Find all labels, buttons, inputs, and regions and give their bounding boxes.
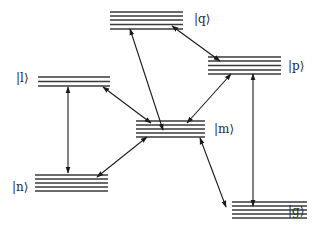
level-label-q: |q⟩ (194, 13, 210, 25)
energy-level-diagram (0, 0, 320, 231)
transition-arrow-m-g (200, 138, 226, 207)
transition-arrow-m-n (97, 137, 147, 177)
transition-arrows (68, 26, 253, 207)
transition-arrow-q-p (172, 26, 220, 61)
level-m (136, 121, 205, 137)
level-label-l: |l⟩ (16, 72, 29, 84)
level-p (208, 57, 281, 74)
transition-arrow-p-m (187, 74, 231, 123)
level-label-n: |n⟩ (12, 181, 28, 193)
energy-levels (35, 12, 307, 218)
transition-arrow-l-m (103, 87, 151, 123)
level-l (38, 77, 110, 86)
level-label-p: |p⟩ (288, 60, 304, 72)
transition-arrow-q-m (130, 29, 163, 130)
level-label-g: |g⟩ (288, 205, 304, 217)
level-label-m: |m⟩ (214, 123, 234, 135)
level-n (35, 175, 108, 191)
